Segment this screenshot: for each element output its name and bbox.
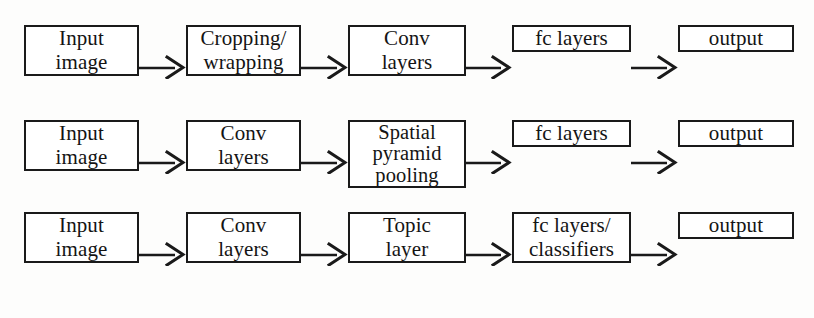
pipeline-row-topic-layer: Input image Conv layers Topic layer xyxy=(0,212,814,294)
node-label-line: layers xyxy=(382,51,433,75)
arrow-right-icon xyxy=(631,53,679,79)
node-label-line: Cropping/ xyxy=(200,27,286,51)
node-label-line: Spatial xyxy=(378,122,436,143)
node-fc-layers: fc layers xyxy=(512,25,631,52)
node-label-line: pyramid xyxy=(372,143,441,164)
node-input-image: Input image xyxy=(24,25,139,76)
node-conv-layers: Conv layers xyxy=(186,212,301,263)
pipeline-row-spatial-pyramid-pooling: Input image Conv layers Spatial pyramid … xyxy=(0,120,814,203)
node-label-line: Input xyxy=(59,27,104,51)
node-output: output xyxy=(678,120,794,147)
arrow-right-icon xyxy=(466,240,513,266)
node-conv-layers: Conv layers xyxy=(348,25,466,76)
node-fc-layers: fc layers xyxy=(512,120,631,147)
node-label-line: output xyxy=(709,122,763,145)
node-label-line: fc layers xyxy=(535,122,608,145)
node-cropping-wrapping: Cropping/ wrapping xyxy=(186,25,301,76)
node-label-line: Conv xyxy=(221,214,267,238)
node-input-image: Input image xyxy=(24,120,139,171)
pipeline-row-cropping-wrapping: Input image Cropping/ wrapping Conv laye… xyxy=(0,25,814,107)
node-label-line: Topic xyxy=(383,214,431,238)
node-label-line: classifiers xyxy=(529,238,614,262)
node-output: output xyxy=(678,25,794,52)
node-topic-layer: Topic layer xyxy=(348,212,466,263)
arrow-right-icon xyxy=(631,240,679,266)
node-output: output xyxy=(678,212,794,239)
arrow-right-icon xyxy=(139,240,187,266)
node-label-line: fc layers/ xyxy=(532,214,611,238)
node-conv-layers: Conv layers xyxy=(186,120,301,171)
node-label-line: Conv xyxy=(384,27,430,51)
node-label-line: fc layers xyxy=(535,27,608,50)
node-fc-layers-classifiers: fc layers/ classifiers xyxy=(512,212,631,263)
node-label-line: image xyxy=(56,51,108,75)
node-label-line: output xyxy=(709,214,763,237)
arrow-right-icon xyxy=(139,53,187,79)
node-label-line: wrapping xyxy=(203,51,283,75)
arrow-right-icon xyxy=(466,53,513,79)
node-input-image: Input image xyxy=(24,212,139,263)
arrow-right-icon xyxy=(301,240,349,266)
node-label-line: pooling xyxy=(375,165,438,186)
pipeline-diagram: Input image Cropping/ wrapping Conv laye… xyxy=(0,0,814,318)
arrow-right-icon xyxy=(301,53,349,79)
node-label-line: layer xyxy=(386,238,428,262)
node-label-line: Input xyxy=(59,214,104,238)
node-label-line: layers xyxy=(218,238,269,262)
arrow-right-icon xyxy=(301,148,349,174)
node-label-line: image xyxy=(56,238,108,262)
arrow-right-icon xyxy=(139,148,187,174)
node-label-line: Conv xyxy=(221,122,267,146)
node-label-line: output xyxy=(709,27,763,50)
node-spatial-pyramid-pooling: Spatial pyramid pooling xyxy=(348,120,466,188)
node-label-line: layers xyxy=(218,146,269,170)
node-label-line: image xyxy=(56,146,108,170)
arrow-right-icon xyxy=(631,148,679,174)
node-label-line: Input xyxy=(59,122,104,146)
arrow-right-icon xyxy=(466,148,513,174)
